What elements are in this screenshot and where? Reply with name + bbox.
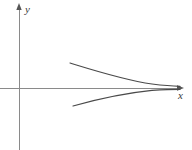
curve-upper-branch bbox=[70, 63, 180, 86]
y-axis-arrowhead-icon bbox=[16, 3, 21, 10]
graph-figure: y x bbox=[0, 0, 192, 150]
coordinate-plane-svg: y x bbox=[0, 0, 192, 150]
x-axis-label: x bbox=[177, 89, 183, 101]
curve-lower-branch bbox=[73, 89, 180, 106]
y-axis-label: y bbox=[24, 3, 30, 15]
